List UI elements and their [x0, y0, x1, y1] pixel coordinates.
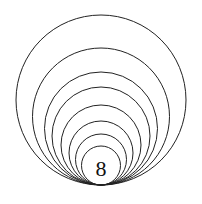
nested-circles-diagram: 8: [0, 0, 202, 204]
number-label: 8: [86, 157, 116, 181]
